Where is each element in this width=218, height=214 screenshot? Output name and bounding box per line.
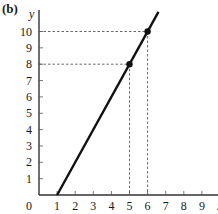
y-tick-label: 10	[20, 25, 32, 39]
y-tick-label: 6	[26, 90, 32, 104]
x-tick-label: 5	[127, 199, 133, 213]
x-tick-label: 1	[54, 199, 60, 213]
y-tick-label: 7	[26, 74, 32, 88]
y-axis-label: y	[28, 7, 35, 21]
guide-lines	[39, 32, 148, 196]
series-line	[57, 12, 158, 195]
x-axis-label: x	[216, 199, 218, 213]
x-tick-label: 3	[90, 199, 96, 213]
y-tick-label: 5	[26, 106, 32, 120]
axes	[39, 10, 218, 195]
x-tick-label: 8	[181, 199, 187, 213]
x-tick-label: 6	[145, 199, 151, 213]
y-tick-label: 4	[26, 123, 32, 137]
x-tick-label: 4	[108, 199, 114, 213]
origin-label: 0	[26, 199, 32, 213]
y-tick-label: 9	[26, 41, 32, 55]
x-tick-label: 2	[72, 199, 78, 213]
data-point	[144, 28, 150, 34]
y-tick-label: 8	[26, 57, 32, 71]
y-tick-label: 1	[26, 172, 32, 186]
y-tick-label: 2	[26, 155, 32, 169]
ticks: 12345678912345678910	[20, 25, 205, 214]
series	[57, 12, 158, 195]
data-point	[126, 61, 132, 67]
y-tick-label: 3	[26, 139, 32, 153]
x-tick-label: 9	[199, 199, 205, 213]
panel-label: (b)	[2, 1, 18, 16]
chart: (b) 12345678912345678910 x y 0	[0, 0, 218, 213]
x-tick-label: 7	[163, 199, 169, 213]
